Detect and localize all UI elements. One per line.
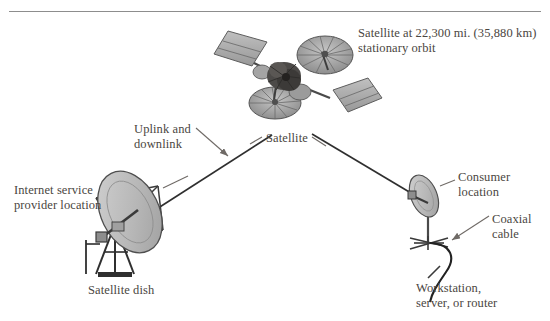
satellite-antenna-upper: [297, 36, 353, 74]
label-coaxial-cable: Coaxial cable: [492, 212, 532, 242]
solar-panel-upper-left: [214, 31, 267, 66]
label-satellite-dish: Satellite dish: [88, 283, 154, 298]
workstation-leader-line: [428, 266, 440, 278]
label-satellite: Satellite: [266, 131, 308, 146]
label-isp-location: Internet service provider location: [14, 183, 101, 213]
dish-base-plate: [98, 272, 132, 277]
uplink-leader-arrow: [196, 128, 228, 156]
label-consumer-location: Consumer location: [458, 170, 510, 200]
isp-satellite-dish-graphic: [85, 161, 188, 277]
label-workstation: Workstation, server, or router: [416, 281, 497, 311]
coax-leader-arrow: [452, 216, 489, 240]
satellite-graphic: [214, 31, 382, 119]
satellite-to-consumer-link: [312, 134, 416, 196]
isp-dish-leader-line: [163, 176, 188, 188]
label-orbit-distance: Satellite at 22,300 mi. (35,880 km) stat…: [358, 26, 536, 56]
consumer-leader-line: [440, 180, 455, 186]
label-leader-lines: [196, 128, 489, 278]
solar-panel-lower-right: [333, 78, 382, 112]
diagram-canvas: Satellite at 22,300 mi. (35,880 km) stat…: [0, 0, 550, 321]
label-uplink-downlink: Uplink and downlink: [134, 122, 191, 152]
